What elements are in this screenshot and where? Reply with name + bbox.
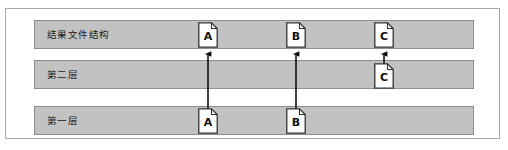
layer-bar-first: 第一层: [34, 106, 474, 135]
layer-label-second: 第二层: [47, 70, 78, 80]
layer-label-first: 第一层: [47, 116, 78, 126]
figure-canvas: 结果文件结构 第二层 第一层 A B: [0, 0, 508, 150]
document-letter: A: [198, 22, 218, 48]
document-icon-second-c[interactable]: C: [374, 63, 394, 89]
document-letter: C: [374, 63, 394, 89]
document-icon-result-b[interactable]: B: [286, 22, 306, 48]
document-icon-result-a[interactable]: A: [198, 22, 218, 48]
document-icon-result-c[interactable]: C: [374, 22, 394, 48]
layer-bar-second: 第二层: [34, 60, 474, 89]
document-icon-first-a[interactable]: A: [198, 108, 218, 134]
layer-label-result: 结果文件结构: [47, 30, 109, 40]
document-letter: B: [286, 108, 306, 134]
document-letter: C: [374, 22, 394, 48]
document-letter: B: [286, 22, 306, 48]
layer-bar-result: 结果文件结构: [34, 20, 474, 49]
document-letter: A: [198, 108, 218, 134]
document-icon-first-b[interactable]: B: [286, 108, 306, 134]
